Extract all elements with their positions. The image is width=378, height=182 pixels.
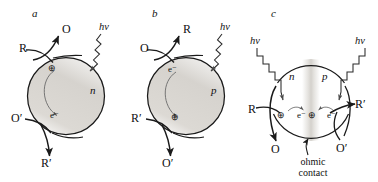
panel-a-label-O-prime: O′ [11, 111, 22, 126]
panel-c-carrier-electron-left: e⁻ [297, 110, 306, 120]
panel-c-label-p-region: p [322, 70, 328, 82]
panel-a-photon-zigzag-arrow [90, 34, 101, 71]
panel-c-label-R: R [248, 102, 256, 117]
panel-c-photon-zigzag-right [339, 48, 365, 100]
panel-c-label-n-region: n [289, 70, 295, 82]
figure-canvas: a O R O′ R′ hv n ⊕ e⁻ b R O R′ O′ hv p e… [0, 0, 378, 182]
panel-a-label-n-type: n [90, 84, 96, 96]
panel-c-letter: c [271, 7, 276, 19]
panel-c-carrier-hole-center: ⊕ [308, 110, 316, 120]
panel-a-label-O: O [62, 22, 71, 37]
panel-c-carrier-electron-right: e⁻ [327, 110, 336, 120]
panel-b-letter: b [152, 7, 158, 19]
panel-b-carrier-hole: ⊕ [171, 112, 179, 122]
panel-a-product-O-arrow [33, 36, 59, 60]
panel-b-carrier-electron: e⁻ [168, 64, 177, 74]
panel-a-label-R-prime: R′ [41, 156, 52, 171]
panel-b-label-O-prime: O′ [162, 156, 173, 171]
panel-a-label-R: R [19, 41, 27, 56]
panel-c-label-O-prime: O′ [336, 141, 347, 156]
panel-c-label-R-prime: R′ [355, 97, 366, 112]
panel-b-label-R-prime: R′ [131, 111, 142, 126]
panel-c-product-O-arrow [270, 86, 276, 141]
panel-c-photon-zigzag-left [257, 48, 283, 100]
panel-a-carrier-electron: e⁻ [50, 110, 59, 120]
panel-b-label-O: O [140, 41, 149, 56]
panel-c-label-hv-left: hv [250, 35, 260, 46]
panel-b-photon-zigzag-arrow [211, 34, 222, 71]
ohmic-contact-line-1: ohmic [288, 156, 338, 167]
panel-c-right-outer-arc [344, 86, 350, 136]
panel-c-ohmic-contact-leader [306, 139, 308, 155]
panel-a-carrier-hole: ⊕ [48, 63, 56, 73]
panel-c-annotation-ohmic-contact: ohmic contact [288, 156, 338, 178]
panel-b-product-R-arrow [154, 36, 179, 60]
panel-a-label-hv: hv [99, 21, 109, 32]
panel-c-label-hv-right: hv [355, 35, 365, 46]
panel-c-graphics [256, 48, 365, 155]
panel-b-label-p-type: p [211, 84, 217, 96]
panel-c-label-O: O [271, 142, 280, 157]
panel-c-carrier-hole-left: ⊕ [277, 110, 285, 120]
panel-a-letter: a [32, 7, 38, 19]
panel-b-label-R: R [183, 22, 191, 37]
panel-b-label-hv: hv [220, 21, 230, 32]
ohmic-contact-line-2: contact [288, 167, 338, 178]
panel-c-junction-shading [302, 58, 320, 142]
